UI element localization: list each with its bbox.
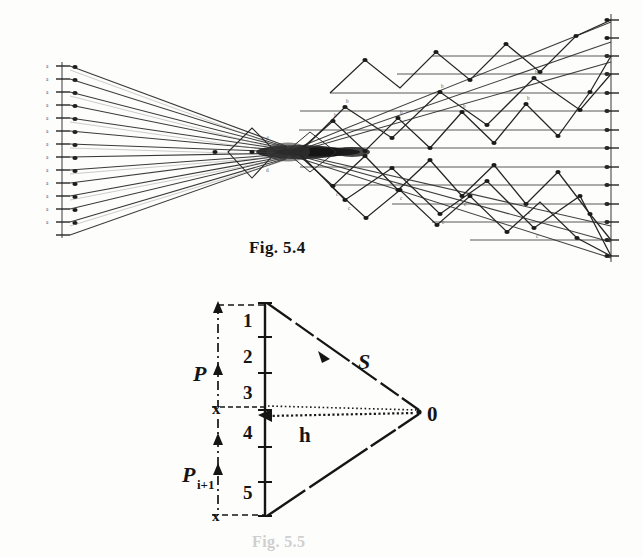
- left-axis-point-labels: a a a a a a a a a a a a a: [46, 63, 49, 225]
- svg-text:c: c: [400, 195, 403, 201]
- figure-5-4-drawing: a a a a a a a a a a a a a: [0, 0, 643, 280]
- scanned-figure-page: a a a a a a a a a a a a a: [0, 0, 643, 557]
- svg-text:5: 5: [243, 482, 253, 503]
- upper-slant-side-S: [267, 303, 419, 410]
- svg-text:b: b: [400, 109, 403, 115]
- figure-5-5-drawing: 1 2 3 4 5: [0, 277, 643, 557]
- label-S: S: [358, 349, 370, 374]
- svg-text:b: b: [527, 95, 530, 101]
- svg-text:b: b: [334, 112, 337, 118]
- svg-text:a: a: [46, 76, 49, 82]
- svg-text:x: x: [212, 399, 221, 418]
- svg-text:a: a: [46, 154, 49, 160]
- brace-P: P x: [192, 301, 265, 418]
- figure-5-4-caption: Fig. 5.4: [249, 238, 306, 258]
- vertical-scale-line: [258, 303, 272, 516]
- svg-text:a: a: [46, 63, 49, 69]
- height-h-line: [258, 406, 418, 422]
- svg-text:3: 3: [243, 382, 253, 403]
- label-h: h: [299, 423, 311, 447]
- svg-text:x: x: [212, 508, 220, 524]
- svg-text:2: 2: [243, 346, 253, 367]
- svg-text:c: c: [536, 233, 539, 239]
- svg-text:i+1: i+1: [197, 477, 215, 492]
- svg-text:a: a: [46, 193, 49, 199]
- svg-text:c: c: [348, 205, 351, 211]
- svg-text:b: b: [463, 103, 466, 109]
- svg-text:b: b: [535, 69, 538, 75]
- left-axis-points: [72, 65, 77, 225]
- svg-text:a: a: [46, 89, 49, 95]
- svg-text:1: 1: [243, 310, 253, 331]
- svg-text:b: b: [346, 98, 349, 104]
- svg-text:a: a: [46, 141, 49, 147]
- svg-text:a: a: [46, 206, 49, 212]
- svg-text:d: d: [266, 167, 269, 173]
- svg-text:a: a: [46, 167, 49, 173]
- svg-text:a: a: [46, 180, 49, 186]
- label-O: 0: [427, 402, 438, 426]
- svg-text:a: a: [46, 128, 49, 134]
- apex-point-O: [416, 409, 421, 414]
- svg-text:4: 4: [243, 422, 253, 443]
- svg-text:a: a: [46, 219, 49, 225]
- svg-text:d: d: [266, 135, 269, 141]
- svg-text:P: P: [181, 462, 196, 487]
- upper-zigzag-rays: [300, 20, 611, 152]
- left-axis: a a a a a a a a a a a a a: [46, 62, 78, 238]
- svg-text:P: P: [192, 361, 207, 386]
- svg-text:b: b: [441, 83, 444, 89]
- lower-slant-side: [267, 414, 419, 516]
- figure-5-5-caption: Fig. 5.5: [252, 533, 305, 551]
- left-ray-fan: [70, 66, 289, 235]
- upper-zigzag-envelope: [292, 22, 611, 153]
- svg-text:a: a: [46, 115, 49, 121]
- svg-text:a: a: [46, 102, 49, 108]
